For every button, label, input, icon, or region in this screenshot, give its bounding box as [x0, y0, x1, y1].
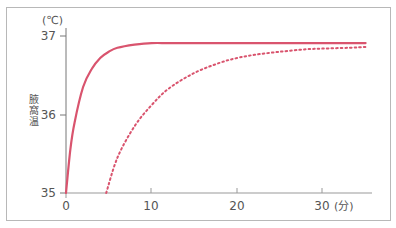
- y-axis-title-char: 腋: [29, 93, 39, 105]
- y-unit-label: (℃): [42, 14, 63, 27]
- x-tick-label: 10: [143, 199, 158, 213]
- series-solid-line: [66, 43, 366, 193]
- x-tick-label: 30: [314, 199, 329, 213]
- line-chart: 37 36 35 (℃) 腋 窩 温 0 10 20 30 (分): [0, 0, 396, 228]
- y-tick-label: 35: [41, 186, 56, 200]
- x-tick-label: 0: [62, 199, 70, 213]
- y-tick-label: 37: [41, 29, 56, 43]
- y-axis-title-char: 温: [29, 116, 39, 127]
- y-axis-title-char: 窩: [29, 104, 39, 116]
- x-unit-label: (分): [334, 200, 354, 213]
- series-dotted-line: [106, 47, 365, 193]
- x-tick-label: 20: [229, 199, 244, 213]
- y-tick-label: 36: [41, 108, 56, 122]
